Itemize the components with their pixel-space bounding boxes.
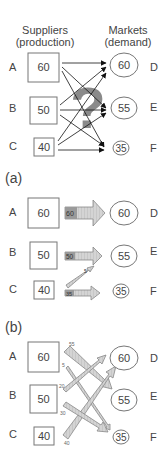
- market-f-value: 35: [115, 432, 127, 443]
- market-f-label: F: [150, 431, 157, 443]
- supplier-a-label: A: [9, 350, 17, 362]
- supplier-b-label: B: [9, 246, 16, 258]
- header: Suppliers (production) Markets (demand): [16, 24, 152, 48]
- flow-a-d: 60: [65, 200, 105, 226]
- supplier-c-label: C: [9, 140, 17, 152]
- flow-amount: 55: [69, 341, 75, 347]
- supplier-c-value: 40: [38, 141, 50, 153]
- market-e-label: E: [150, 390, 157, 402]
- suppliers-subtitle: (production): [16, 36, 75, 48]
- flow-b-e: 50: [65, 247, 102, 265]
- panel-b: (b) A B C 60 50 40 55 5 40: [5, 319, 158, 446]
- suppliers-title: Suppliers: [22, 24, 68, 36]
- market-f-value: 35: [115, 143, 127, 154]
- market-d-value: 60: [118, 352, 130, 364]
- markets-title: Markets: [108, 24, 148, 36]
- supplier-b-label: B: [9, 389, 16, 401]
- supplier-b-value: 50: [37, 393, 49, 405]
- supplier-a-label: A: [9, 61, 17, 73]
- supplier-c-label: C: [9, 428, 17, 440]
- market-e-value: 55: [118, 394, 130, 406]
- market-f-value: 35: [115, 286, 127, 297]
- panel-b-label: (b): [5, 319, 22, 335]
- flow-amount: 5: [62, 362, 65, 368]
- supplier-a-value: 60: [37, 61, 49, 73]
- market-f-label: F: [150, 142, 157, 154]
- market-d-label: D: [150, 61, 158, 73]
- flow-amount: 60: [66, 210, 74, 217]
- panel-top: A B C 60 50 40 ? 60 55 35 D: [9, 53, 158, 156]
- market-d-label: D: [150, 352, 158, 364]
- market-e-value: 55: [118, 102, 130, 114]
- flow-amount: 50: [66, 253, 74, 260]
- supplier-a-value: 60: [37, 351, 49, 363]
- question-mark-icon: ?: [70, 75, 105, 140]
- flow-amount: 40: [64, 440, 70, 446]
- market-e-label: E: [150, 101, 157, 113]
- market-d-value: 60: [118, 207, 130, 219]
- markets-subtitle: (demand): [104, 36, 151, 48]
- supplier-b-value: 50: [37, 104, 49, 116]
- supply-demand-diagram: Suppliers (production) Markets (demand) …: [0, 0, 168, 453]
- panel-a-label: (a): [5, 170, 22, 186]
- flow-amount: 20: [59, 383, 65, 389]
- market-d-value: 60: [118, 59, 130, 71]
- flow-c-f: 35: [65, 286, 100, 300]
- panel-a: (a) A B C 60 50 40 60 50 5 35: [5, 170, 158, 300]
- market-f-label: F: [150, 285, 157, 297]
- supplier-b-value: 50: [37, 249, 49, 261]
- supplier-c-value: 40: [38, 284, 50, 296]
- supplier-c-label: C: [9, 283, 17, 295]
- flow-amount: 5: [84, 268, 87, 274]
- market-d-label: D: [150, 207, 158, 219]
- flow-amount: 35: [66, 291, 72, 297]
- supplier-c-value: 40: [38, 430, 50, 442]
- supplier-a-label: A: [9, 206, 17, 218]
- market-e-value: 55: [118, 250, 130, 262]
- flow-amount: 30: [60, 410, 66, 416]
- market-e-label: E: [150, 245, 157, 257]
- supplier-a-value: 60: [37, 207, 49, 219]
- supplier-b-label: B: [9, 102, 16, 114]
- flow-c-e: 5: [66, 266, 94, 288]
